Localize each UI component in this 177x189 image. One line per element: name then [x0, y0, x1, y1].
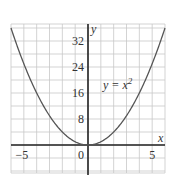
y-axis-label: y: [90, 22, 97, 36]
equation-base: y = x: [102, 78, 128, 92]
x-axis-label: x: [157, 131, 164, 145]
equation-exponent: 2: [128, 76, 133, 86]
parabola-chart: 8162432−505 x y y = x2: [0, 0, 177, 189]
y-tick-label: 8: [78, 112, 84, 126]
y-tick-label: 32: [72, 34, 84, 48]
axes: [11, 24, 165, 175]
x-tick-label: 0: [78, 148, 84, 162]
x-tick-label: 5: [149, 148, 155, 162]
equation-annotation: y = x2: [102, 76, 133, 92]
x-tick-label: −5: [15, 148, 28, 162]
y-tick-label: 24: [72, 60, 84, 74]
y-tick-label: 16: [72, 86, 84, 100]
